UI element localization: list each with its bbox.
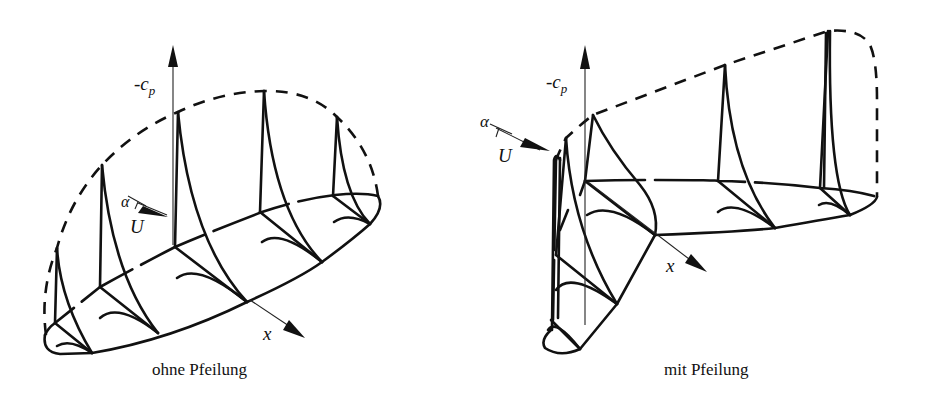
wing-trailing-edge	[543, 197, 877, 353]
freestream-arrow: α U	[121, 193, 168, 237]
x-axis-label: x	[665, 255, 675, 276]
x-axis-arrowhead-icon	[685, 254, 707, 272]
wing-leading-edge	[45, 194, 378, 335]
pressure-station-1	[55, 248, 92, 353]
velocity-label: U	[498, 145, 513, 166]
cp-axis-label: -cp	[546, 71, 568, 96]
x-axis-label: x	[262, 323, 272, 344]
pressure-station-3	[175, 112, 247, 302]
angle-of-attack-label: α	[121, 193, 130, 210]
freestream-arrowhead-icon	[520, 138, 550, 151]
pressure-station-3	[580, 115, 656, 235]
freestream-arrow: α U	[480, 112, 550, 166]
cp-axis-arrowhead-icon	[580, 45, 590, 69]
angle-of-attack-label: α	[480, 112, 490, 131]
velocity-label: U	[130, 216, 145, 237]
swept-wing-diagram: -cp x α U mit Pfeilung	[480, 31, 877, 379]
caption-unswept: ohne Pfeilung	[152, 360, 247, 379]
wing-leading-edge	[553, 160, 877, 320]
caption-swept: mit Pfeilung	[664, 360, 749, 379]
pressure-station-2	[100, 165, 158, 333]
x-axis	[588, 182, 693, 262]
cp-axis-label: -cp	[134, 73, 156, 98]
x-axis-arrowhead-icon	[283, 320, 305, 338]
pressure-station-5	[819, 31, 850, 215]
pressure-station-4	[718, 65, 775, 228]
unswept-wing-diagram: -cp x α U ohne Pfeilung	[44, 45, 380, 379]
cp-envelope-dashed	[44, 91, 378, 335]
pressure-station-root	[548, 156, 580, 349]
pressure-station-4	[260, 91, 322, 262]
cp-axis-arrowhead-icon	[168, 45, 178, 67]
